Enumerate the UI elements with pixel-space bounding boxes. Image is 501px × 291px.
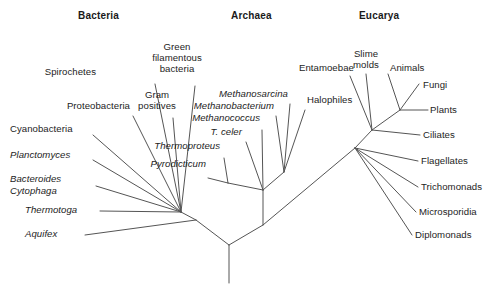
taxon-label-spirochetes: Spirochetes [22,66,96,77]
taxon-label-green-filamentous-bacteria-line3: bacteria [143,63,211,74]
taxon-label-methanococcus: Methanococcus [178,112,260,123]
branch-fungi [400,84,419,110]
taxon-label-cyanobacteria: Cyanobacteria [10,123,73,134]
taxon-label-pyrodicticum: Pyrodicticum [140,158,206,169]
taxon-label-t-celer: T. celer [178,126,242,137]
domain-header-bacteria: Bacteria [78,10,119,21]
branch-bacteria-base-to-crown [181,212,196,220]
taxon-label-aquifex: Aquifex [25,228,57,239]
taxon-label-thermotoga: Thermotoga [25,204,77,215]
branch-archaea-crenarchaeota [228,183,263,190]
branch-eucarya-mid-to-crown [372,110,400,130]
taxon-label-slime-molds-line1: Slime [344,48,388,59]
taxon-label-planctomyces: Planctomyces [10,149,70,160]
taxon-label-methanosarcina: Methanosarcina [190,88,288,99]
branch-root-to-archaea [229,225,263,245]
taxon-label-microsporidia: Microsporidia [419,206,477,217]
branch-animals [388,74,400,110]
taxon-label-halophiles: Halophiles [307,94,352,105]
branch-archaea-to-eucarya [263,148,355,225]
taxon-label-thermoproteus: Thermoproteus [150,140,220,151]
taxon-label-animals: Animals [390,62,424,73]
branch-thermotoga [100,211,181,212]
taxon-label-ciliates: Ciliates [423,129,455,140]
branch-pyrodicticum [208,178,228,183]
branch-bacteroides-cytophaga [96,186,181,212]
taxon-label-gram-positives-line1: Gram [132,89,182,100]
taxon-label-cytophaga: Cytophaga [10,185,57,196]
branch-flagellates [355,148,418,161]
branch-eucarya-base-to-mid [355,130,372,148]
taxon-label-green-filamentous-bacteria-line1: Green [143,41,211,52]
phylogenetic-tree-figure: Bacteria Archaea Eucarya Spirochetes Gre… [0,0,501,291]
taxon-label-methanobacterium: Methanobacterium [178,100,274,111]
branch-diplomonads [355,148,412,235]
tree-branches-svg [0,0,501,291]
taxon-label-diplomonads: Diplomonads [415,229,472,240]
domain-header-archaea: Archaea [231,10,272,21]
branch-aquifex [85,220,196,235]
taxon-label-bacteroides: Bacteroides [10,173,61,184]
taxon-label-gram-positives-line2: positives [132,100,182,111]
taxon-label-flagellates: Flagellates [421,155,468,166]
branch-methanobacterium [276,116,284,172]
taxon-label-green-filamentous-bacteria-line2: filamentous [143,52,211,63]
branch-archaea-euryarchaeota [263,172,284,190]
taxon-label-fungi: Fungi [423,79,447,90]
branch-ciliates [372,130,420,135]
branch-thermoproteus [224,158,228,183]
branch-methanococcus [262,130,263,190]
branch-root-to-bacteria [196,220,229,245]
taxon-label-proteobacteria: Proteobacteria [52,100,130,111]
taxon-label-trichomonads: Trichomonads [421,181,482,192]
taxon-label-plants: Plants [430,104,457,115]
domain-header-eucarya: Eucarya [359,10,399,21]
taxon-label-slime-molds-line2: molds [344,59,388,70]
branch-t-celer [246,142,263,190]
